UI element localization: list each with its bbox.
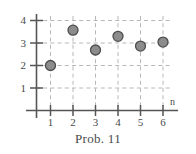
x-tick-label-4: 4 [112,117,124,128]
x-tick-label-5: 5 [135,117,147,128]
data-point [158,37,168,47]
data-point [136,41,146,51]
data-point [91,45,101,55]
data-point [46,61,56,71]
data-point [113,31,123,41]
data-points [46,25,169,70]
y-tick-label-1: 1 [14,83,26,94]
x-tick-label-3: 3 [90,117,102,128]
y-tick-label-4: 4 [14,15,26,26]
x-tick-label-6: 6 [157,117,169,128]
data-point [68,25,78,35]
figure-caption: Prob. 11 [0,131,196,147]
y-tick-label-2: 2 [14,60,26,71]
x-axis-name: n [170,96,175,107]
y-tick-label-3: 3 [14,38,26,49]
x-tick-label-1: 1 [45,117,57,128]
horizontal-gridlines [36,21,172,89]
figure-container: 4 3 2 1 1 2 3 4 5 6 n Prob. 11 [0,0,196,154]
x-tick-label-2: 2 [67,117,79,128]
